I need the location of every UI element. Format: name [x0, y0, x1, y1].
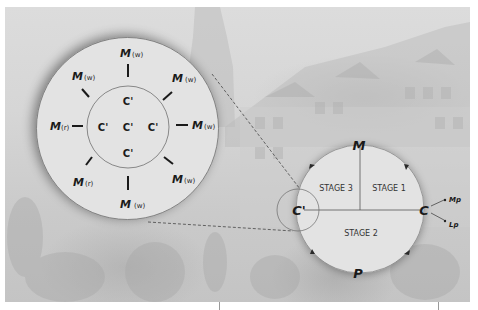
label-c-prime-right: C'	[148, 122, 158, 133]
label-c-prime-center: C'	[123, 122, 133, 133]
connector-upper-line	[212, 74, 300, 189]
label-stage-2: STAGE 2	[344, 229, 378, 238]
mp-dot	[444, 199, 446, 201]
label-stage-3: STAGE 3	[319, 184, 353, 193]
label-commodity: C	[419, 203, 429, 218]
frame-tick-mark	[219, 302, 220, 310]
lp-dot	[444, 220, 446, 222]
connector-lower-line	[148, 222, 293, 231]
label-money: M	[353, 138, 366, 153]
label-stage-1: STAGE 1	[372, 184, 406, 193]
label-c-prime-left: C'	[98, 122, 108, 133]
circuit-circle: M P C STAGE 3 STAGE 1 STAGE 2 Mp Lp	[296, 138, 461, 281]
frame-tick-mark	[438, 302, 439, 310]
magnified-circle: M(w) M(w) M(w) M(w) M(w) M(r) M(r) M(w) …	[37, 38, 219, 220]
label-production: P	[353, 266, 363, 281]
label-c-prime-top: C'	[123, 96, 133, 107]
label-means-of-production: Mp	[449, 196, 461, 204]
branch-arrows	[431, 200, 444, 220]
label-c-prime-circuit: C'	[292, 203, 306, 218]
label-c-prime-bottom: C'	[123, 148, 133, 159]
label-labour-power: Lp	[449, 221, 458, 229]
economic-circuit-diagram: M(w) M(w) M(w) M(w) M(w) M(r) M(r) M(w) …	[0, 0, 478, 310]
